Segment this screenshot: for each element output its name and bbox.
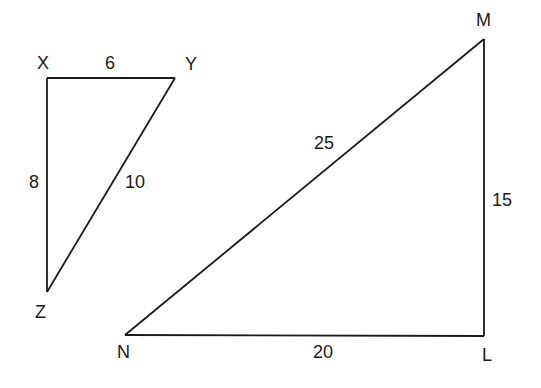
side-length-xz: 8 (29, 172, 39, 192)
side-length-xy: 6 (105, 53, 115, 73)
triangle-xyz: X Y Z 6 10 8 (29, 53, 197, 322)
vertex-label-y: Y (185, 54, 197, 74)
diagram-canvas: X Y Z 6 10 8 M N L 25 15 20 (0, 0, 541, 388)
side-length-yz: 10 (125, 172, 145, 192)
vertex-label-l: L (482, 345, 492, 365)
vertex-label-z: Z (35, 302, 46, 322)
side-nl (125, 335, 484, 336)
vertex-label-x: X (37, 53, 49, 73)
side-yz (47, 78, 175, 292)
side-length-ml: 15 (492, 190, 512, 210)
side-length-mn: 25 (314, 133, 334, 153)
side-mn (125, 39, 484, 335)
vertex-label-m: M (476, 10, 491, 30)
side-length-nl: 20 (313, 342, 333, 362)
triangle-mnl: M N L 25 15 20 (117, 10, 512, 365)
vertex-label-n: N (117, 342, 130, 362)
